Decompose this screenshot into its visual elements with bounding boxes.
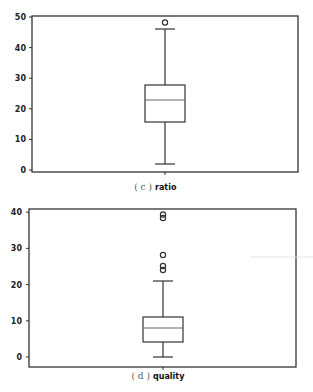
y-tick-label: 50 bbox=[15, 13, 27, 22]
y-axis-labels: 0 10 20 30 40 50 bbox=[15, 13, 27, 175]
boxplot-quality bbox=[143, 212, 183, 357]
y-tick-label: 40 bbox=[11, 208, 23, 217]
outlier-marker bbox=[162, 20, 167, 25]
y-tick-label: 30 bbox=[15, 74, 27, 83]
caption-name: quality bbox=[153, 372, 185, 381]
y-axis-ticks bbox=[26, 212, 163, 370]
caption-letter: ( d ) bbox=[131, 371, 150, 381]
caption-name: ratio bbox=[155, 183, 177, 192]
iqr-box bbox=[145, 85, 185, 122]
y-tick-label: 30 bbox=[11, 244, 23, 253]
outlier-marker bbox=[160, 252, 165, 257]
y-tick-label: 20 bbox=[11, 281, 23, 290]
outlier-marker bbox=[160, 215, 165, 220]
y-tick-label: 0 bbox=[20, 166, 26, 175]
y-tick-label: 10 bbox=[15, 135, 27, 144]
boxplot-ratio bbox=[145, 20, 185, 164]
y-tick-label: 40 bbox=[15, 44, 27, 53]
chart-ratio: 0 10 20 30 40 50 ( c ) ratio bbox=[15, 13, 298, 192]
caption-letter: ( c ) bbox=[134, 182, 152, 192]
y-tick-label: 20 bbox=[15, 105, 27, 114]
iqr-box bbox=[143, 317, 183, 342]
caption-quality: ( d ) quality bbox=[131, 371, 185, 381]
caption-ratio: ( c ) ratio bbox=[134, 182, 177, 192]
y-axis-labels: 0 10 20 30 40 bbox=[11, 208, 23, 362]
chart-quality: 0 10 20 30 40 ( d ) quality bbox=[11, 208, 296, 381]
y-tick-label: 10 bbox=[11, 317, 23, 326]
y-tick-label: 0 bbox=[16, 353, 22, 362]
figure: 0 10 20 30 40 50 ( c ) ratio bbox=[0, 0, 313, 392]
